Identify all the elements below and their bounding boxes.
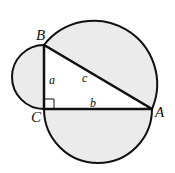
diagram-canvas	[0, 0, 175, 173]
vertex-label-b: B	[36, 28, 45, 43]
semicircle-on-a	[12, 45, 44, 109]
side-label-c: c	[82, 72, 87, 84]
semicircle-pythagoras-diagram: B C A a b c	[0, 0, 175, 173]
semicircle-on-b	[44, 109, 152, 163]
side-label-b: b	[90, 97, 96, 109]
vertex-label-a: A	[155, 105, 164, 120]
side-label-a: a	[49, 74, 55, 86]
vertex-label-c: C	[31, 110, 41, 125]
